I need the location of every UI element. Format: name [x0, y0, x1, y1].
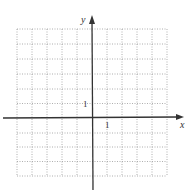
x-axis-label: x	[179, 119, 185, 130]
y-axis	[89, 15, 95, 190]
y-axis-label: y	[80, 14, 86, 25]
x-axis	[3, 114, 184, 120]
y-tick-label-1: 1	[83, 99, 88, 109]
y-axis-arrow-icon	[89, 15, 95, 24]
coordinate-plane: y x 1 1	[0, 0, 192, 192]
x-tick-label-1: 1	[105, 120, 110, 130]
